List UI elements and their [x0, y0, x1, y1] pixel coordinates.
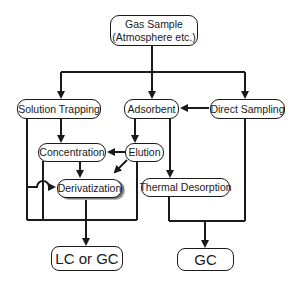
node-thermal-desorption: Thermal Desorption — [141, 178, 230, 197]
node-gas-sample: Gas Sample (Atmosphere etc.) — [110, 15, 198, 46]
node-direct-sampling: Direct Sampling — [210, 99, 285, 119]
node-lc-or-gc: LC or GC — [51, 246, 123, 271]
node-derivatization: Derivatization — [57, 179, 122, 198]
node-solution-trapping: Solution Trapping — [17, 99, 101, 119]
node-elution: Elution — [125, 143, 164, 162]
gas-sample-label: Gas Sample — [125, 18, 183, 31]
node-concentration: Concentration — [38, 143, 106, 162]
node-adsorbent: Adsorbent — [124, 99, 179, 119]
gas-sample-sublabel: (Atmosphere etc.) — [112, 31, 195, 44]
node-gc: GC — [177, 248, 234, 271]
